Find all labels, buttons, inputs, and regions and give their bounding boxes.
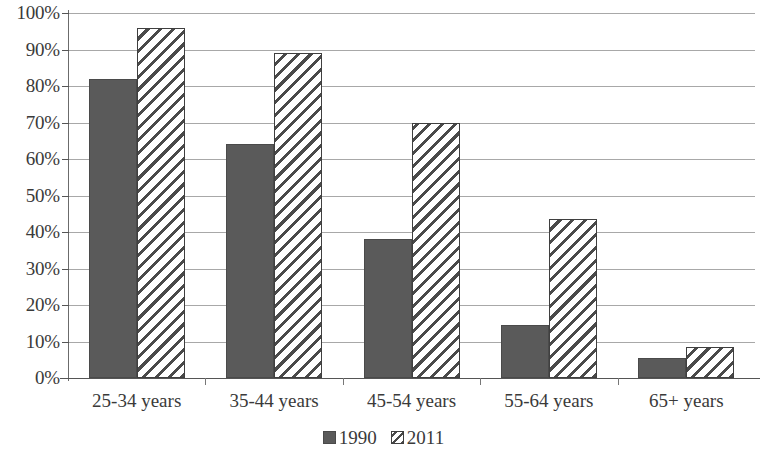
y-tick-60 — [62, 159, 69, 160]
bar-1990-65+-years — [638, 358, 686, 378]
legend-item-1990[interactable]: 1990 — [323, 428, 377, 447]
y-axis-label: 0% — [0, 368, 60, 387]
y-axis-label: 60% — [0, 149, 60, 168]
y-axis-label: 50% — [0, 186, 60, 205]
legend-item-2011[interactable]: 2011 — [391, 428, 444, 447]
x-axis-label: 35-44 years — [205, 390, 342, 412]
bar-1990-25-34-years — [89, 79, 137, 378]
y-tick-100 — [62, 13, 69, 14]
bar-1990-55-64-years — [501, 325, 549, 378]
x-tick — [343, 378, 344, 385]
legend-label: 2011 — [407, 428, 444, 447]
y-axis-label: 30% — [0, 259, 60, 278]
y-axis-label: 100% — [0, 3, 60, 22]
y-tick-70 — [62, 123, 69, 124]
y-axis-label: 20% — [0, 295, 60, 314]
y-tick-90 — [62, 50, 69, 51]
chart-legend: 19902011 — [0, 428, 767, 447]
y-axis-label: 90% — [0, 40, 60, 59]
legend-label: 1990 — [339, 428, 377, 447]
y-axis-label: 70% — [0, 113, 60, 132]
bar-1990-35-44-years — [226, 144, 274, 378]
bar-2011-45-54-years — [412, 123, 460, 379]
bar-2011-35-44-years — [274, 53, 322, 378]
x-tick — [205, 378, 206, 385]
y-axis-label: 10% — [0, 332, 60, 351]
bar-2011-55-64-years — [549, 219, 597, 378]
y-tick-40 — [62, 232, 69, 233]
y-tick-50 — [62, 196, 69, 197]
bar-2011-65+-years — [686, 347, 734, 378]
x-axis-label: 45-54 years — [343, 390, 480, 412]
bar-2011-25-34-years — [137, 28, 185, 378]
y-tick-10 — [62, 342, 69, 343]
y-tick-20 — [62, 305, 69, 306]
y-axis-label: 80% — [0, 76, 60, 95]
x-tick — [618, 378, 619, 385]
x-tick — [480, 378, 481, 385]
y-tick-30 — [62, 269, 69, 270]
y-tick-80 — [62, 86, 69, 87]
gridline-100 — [68, 13, 755, 14]
bar-1990-45-54-years — [364, 239, 412, 378]
x-axis-label: 25-34 years — [68, 390, 205, 412]
y-axis-label: 40% — [0, 222, 60, 241]
legend-swatch-icon — [391, 431, 404, 444]
x-axis-line — [60, 378, 760, 379]
x-axis-label: 55-64 years — [480, 390, 617, 412]
x-axis-label: 65+ years — [618, 390, 755, 412]
bar-chart: 100%90%80%70%60%50%40%30%20%10%0% 25-34 … — [0, 0, 767, 459]
legend-swatch-icon — [323, 431, 336, 444]
y-tick-0 — [62, 378, 69, 379]
